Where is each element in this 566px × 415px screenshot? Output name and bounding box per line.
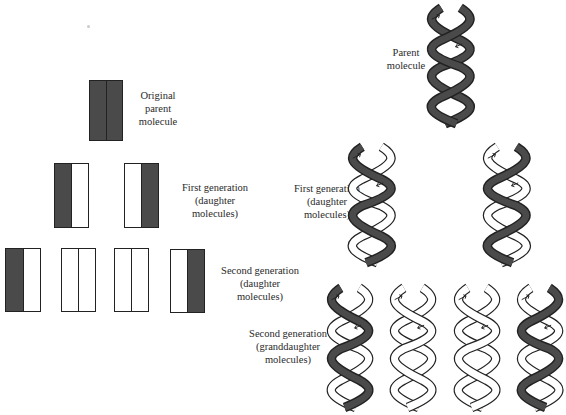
helix-second-gen-4	[521, 288, 559, 408]
helix-canvas	[0, 0, 566, 415]
helix-second-gen-2	[394, 288, 432, 408]
helix-first-gen-1	[352, 147, 391, 263]
helix-second-gen-3	[458, 288, 496, 408]
helix-parent	[431, 8, 470, 124]
helix-first-gen-2	[487, 147, 526, 263]
helix-second-gen-1	[331, 288, 369, 408]
